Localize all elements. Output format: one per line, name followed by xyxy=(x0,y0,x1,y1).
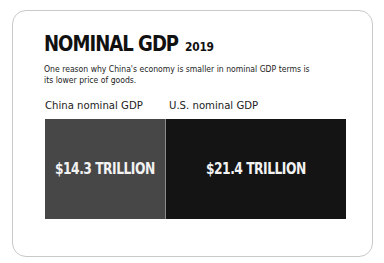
chart-title: NOMINAL GDP 2019 xyxy=(44,31,214,56)
us-gdp-value: $21.4 TRILLION xyxy=(206,160,306,178)
china-label: China nominal GDP xyxy=(45,99,143,112)
china-gdp-bar: $14.3 TRILLION xyxy=(45,119,165,219)
title-year: 2019 xyxy=(185,39,214,54)
title-text: NOMINAL GDP xyxy=(44,31,178,56)
us-label: U.S. nominal GDP xyxy=(169,99,258,112)
us-gdp-bar: $21.4 TRILLION xyxy=(166,119,346,219)
china-gdp-value: $14.3 TRILLION xyxy=(55,160,155,178)
chart-subtitle: One reason why China's economy is smalle… xyxy=(44,64,320,86)
